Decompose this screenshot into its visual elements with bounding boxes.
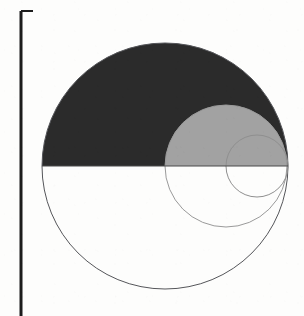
figure-page <box>0 0 304 316</box>
nested-circles-figure <box>0 0 304 316</box>
left-margin-rule <box>21 11 33 316</box>
